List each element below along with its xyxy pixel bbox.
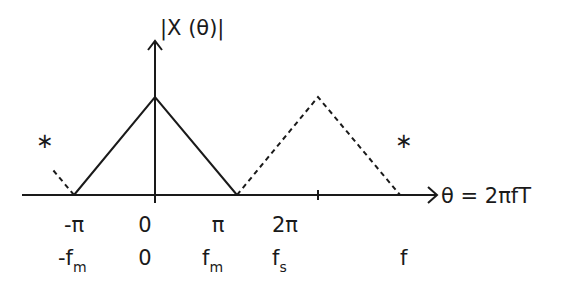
freq-tick-fm: fm [202, 246, 223, 275]
freq-axis-label: f [400, 246, 408, 270]
replica-spectrum [237, 97, 400, 195]
replica-left-partial [53, 170, 74, 195]
freq-tick-0: 0 [138, 246, 151, 270]
freq-tick-fs: fs [272, 246, 287, 275]
x-axis-label: θ = 2πfT [441, 184, 531, 208]
theta-tick-pi: π [212, 213, 225, 237]
marker-right: ∗ [395, 129, 413, 153]
y-axis-label: |X (θ)| [160, 16, 224, 41]
freq-tick-neg-fm: -fm [58, 246, 87, 275]
spectrum-diagram: |X (θ)| θ = 2πfT ∗ ∗ -π 0 π 2π -fm 0 fm … [0, 0, 586, 285]
theta-tick-labels: -π 0 π 2π [64, 213, 298, 237]
theta-tick-2pi: 2π [272, 213, 298, 237]
freq-tick-labels: -fm 0 fm fs f [58, 246, 408, 275]
marker-left: ∗ [36, 129, 54, 153]
theta-tick-0: 0 [138, 213, 151, 237]
theta-tick-neg-pi: -π [64, 213, 85, 237]
